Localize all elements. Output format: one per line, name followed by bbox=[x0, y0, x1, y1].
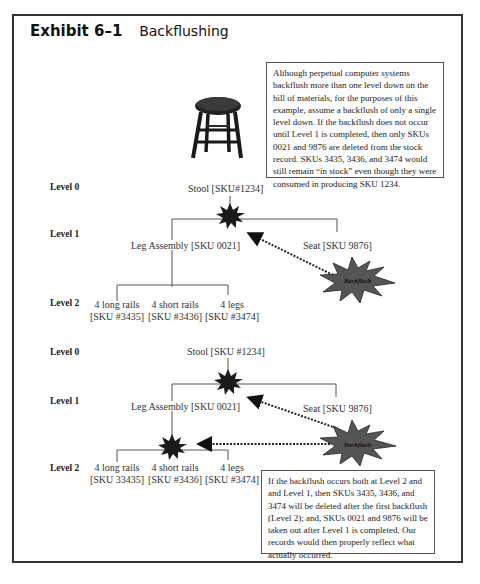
node-seat: Seat [SKU 9876] bbox=[303, 403, 372, 415]
node-long-rails: 4 long rails [SKU #3435] bbox=[88, 299, 146, 323]
node-name: 4 legs bbox=[204, 462, 260, 474]
note-bottom: If the backflush occurs both at Level 2 … bbox=[261, 470, 435, 554]
level-0-label: Level 0 bbox=[50, 347, 79, 357]
node-name: 4 long rails bbox=[88, 462, 146, 474]
level-1-label: Level 1 bbox=[50, 229, 79, 239]
backflush-label: Backflush bbox=[344, 277, 371, 284]
node-sku: [SKU #3474] bbox=[204, 474, 260, 486]
burst-icon bbox=[216, 203, 245, 229]
burst-icon bbox=[214, 369, 243, 395]
node-name: 4 legs bbox=[204, 299, 260, 311]
node-short-rails: 4 short rails [SKU #3436] bbox=[146, 462, 204, 486]
burst-icon bbox=[158, 434, 187, 460]
node-sku: [SKU #3435] bbox=[88, 311, 146, 323]
node-legs: 4 legs [SKU #3474] bbox=[204, 462, 260, 486]
stool-icon bbox=[193, 97, 241, 158]
level-2-label: Level 2 bbox=[50, 298, 79, 308]
node-sku: [SKU #3436] bbox=[146, 311, 204, 323]
node-sku: [SKU #3436] bbox=[146, 474, 204, 486]
node-name: 4 short rails bbox=[146, 299, 204, 311]
node-name: 4 short rails bbox=[146, 462, 204, 474]
node-long-rails: 4 long rails [SKU 33435] bbox=[88, 462, 146, 486]
node-stool: Stool [SKU#1234] bbox=[188, 183, 263, 195]
node-short-rails: 4 short rails [SKU #3436] bbox=[146, 299, 204, 323]
backflush-label: Backflush bbox=[344, 441, 371, 448]
level-1-label: Level 1 bbox=[50, 396, 79, 406]
node-seat: Seat [SKU 9876] bbox=[303, 240, 372, 252]
node-stool: Stool [SKU #1234] bbox=[187, 346, 265, 358]
node-sku: [SKU 33435] bbox=[88, 474, 146, 486]
level-0-label: Level 0 bbox=[50, 182, 79, 192]
node-name: 4 long rails bbox=[88, 299, 146, 311]
node-legs: 4 legs [SKU #3474] bbox=[204, 299, 260, 323]
node-sku: [SKU #3474] bbox=[204, 311, 260, 323]
node-leg-assembly: Leg Assembly [SKU 0021] bbox=[131, 401, 240, 413]
node-leg-assembly: Leg Assembly [SKU 0021] bbox=[131, 240, 240, 252]
level-2-label: Level 2 bbox=[50, 463, 79, 473]
